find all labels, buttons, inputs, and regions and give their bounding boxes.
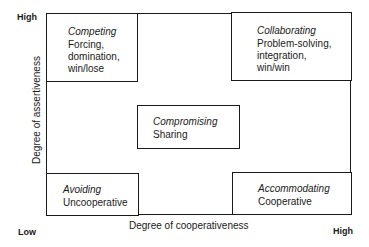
collaborating-description: Problem-solving, integration, win/win <box>257 38 351 74</box>
y-axis-high-label: High <box>17 12 37 22</box>
axis-low-label: Low <box>18 227 36 237</box>
avoiding-description: Uncooperative <box>63 197 138 209</box>
x-axis-high-label: High <box>333 226 353 236</box>
x-axis-title: Degree of cooperativeness <box>129 220 249 231</box>
collaborating-box: Collaborating Problem-solving, integrati… <box>231 12 352 81</box>
competing-box: Competing Forcing, domination, win/lose <box>46 13 138 82</box>
accommodating-box: Accommodating Cooperative <box>232 172 352 215</box>
compromising-box: Compromising Sharing <box>137 105 240 149</box>
accommodating-title: Accommodating <box>258 183 351 195</box>
competing-title: Competing <box>68 26 137 38</box>
compromising-description: Sharing <box>153 129 239 141</box>
competing-description: Forcing, domination, win/lose <box>68 39 137 75</box>
accommodating-description: Cooperative <box>258 196 351 208</box>
avoiding-box: Avoiding Uncooperative <box>46 173 139 216</box>
compromising-title: Compromising <box>153 116 239 128</box>
y-axis-title: Degree of assertiveness <box>31 56 42 164</box>
avoiding-title: Avoiding <box>63 184 138 196</box>
collaborating-title: Collaborating <box>257 25 351 37</box>
